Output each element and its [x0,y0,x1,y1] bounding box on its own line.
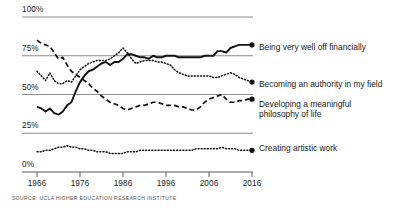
xtick-label-1996: 1996 [146,179,186,189]
series-endpoint-dot-0 [249,42,254,47]
series-label-being-very-well-off-financially: Being very well off financially [259,42,366,52]
series-line-1 [37,48,252,84]
xtick-label-2006: 2006 [189,179,229,189]
ytick-label-75: 75% [22,44,39,54]
source-note: SOURCE: UCLA HIGHER EDUCATION RESEARCH I… [12,195,176,201]
series-label-developing-a-meaningful-philosophy-of-life: Developing a meaningful philosophy of li… [259,99,351,119]
series-label-becoming-an-authority-in-my-field: Becoming an authority in my field [259,79,382,89]
data-series-layer [37,40,255,153]
x-axis-ticks [37,172,252,177]
xtick-label-1976: 1976 [60,179,100,189]
series-endpoint-dot-2 [249,97,254,102]
series-label-line-1: Developing a meaningful [259,99,351,109]
xtick-label-2016: 2016 [232,179,272,189]
ytick-label-50: 50% [22,83,39,93]
xtick-label-1986: 1986 [103,179,143,189]
series-line-3 [37,146,252,154]
series-label-line-2: philosophy of life [259,109,321,119]
xtick-label-1966: 1966 [17,179,57,189]
chart-container: 100% 75% 50% 25% 0% 1966 1976 1986 1996 … [0,0,396,217]
ytick-label-100: 100% [22,5,43,15]
gridlines [22,17,253,133]
series-label-creating-artistic-work: Creating artistic work [259,143,337,153]
x-axis [22,172,253,177]
series-endpoint-dot-1 [249,80,254,85]
ytick-label-0: 0% [22,160,34,170]
ytick-label-25: 25% [22,121,39,131]
series-endpoint-dot-3 [249,148,254,153]
